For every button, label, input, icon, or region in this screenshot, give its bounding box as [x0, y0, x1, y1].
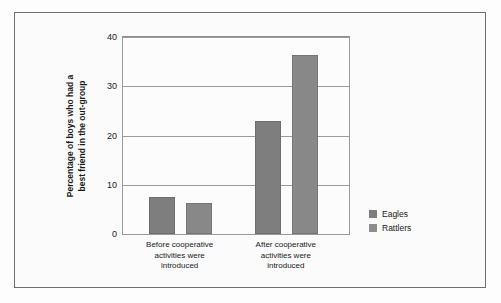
category-label-line: introduced: [125, 261, 235, 272]
category-label-line: After cooperative: [231, 240, 341, 251]
legend-swatch-icon-eagles: [369, 210, 377, 218]
legend-item-eagles[interactable]: Eagles: [369, 207, 411, 221]
plot-area: 010203040: [122, 36, 350, 235]
legend-label: Eagles: [382, 209, 408, 219]
y-axis-tick-label: 30: [107, 81, 117, 91]
legend-swatch-icon-rattlers: [369, 224, 377, 232]
bar-eagles-group-1: [149, 197, 175, 234]
category-label-line: introduced: [231, 261, 341, 272]
y-axis-tick-label: 40: [107, 32, 117, 42]
x-axis-category-label-2: After cooperativeactivities wereintroduc…: [231, 240, 341, 272]
legend-label: Rattlers: [382, 223, 411, 233]
legend-item-rattlers[interactable]: Rattlers: [369, 221, 411, 235]
category-label-line: activities were: [125, 251, 235, 262]
y-axis-title: Percentage of boys who had a best friend…: [58, 36, 94, 236]
y-axis-tick-label: 20: [107, 131, 117, 141]
category-label-line: activities were: [231, 251, 341, 262]
plot-inner: 010203040: [123, 37, 349, 234]
bar-rattlers-group-2: [292, 55, 318, 234]
bar-eagles-group-2: [255, 121, 281, 234]
gridline-y-40: [123, 37, 349, 38]
chart-legend: EaglesRattlers: [369, 207, 411, 235]
y-axis-tick-label: 0: [112, 229, 117, 239]
x-axis-category-label-1: Before cooperativeactivities wereintrodu…: [125, 240, 235, 272]
bar-rattlers-group-1: [186, 203, 212, 234]
y-axis-title-line-2: best friend in the out-group: [76, 75, 88, 197]
figure: Percentage of boys who had a best friend…: [0, 0, 501, 303]
y-axis-title-line-1: Percentage of boys who had a: [65, 75, 77, 197]
y-axis-tick-label: 10: [107, 180, 117, 190]
category-label-line: Before cooperative: [125, 240, 235, 251]
